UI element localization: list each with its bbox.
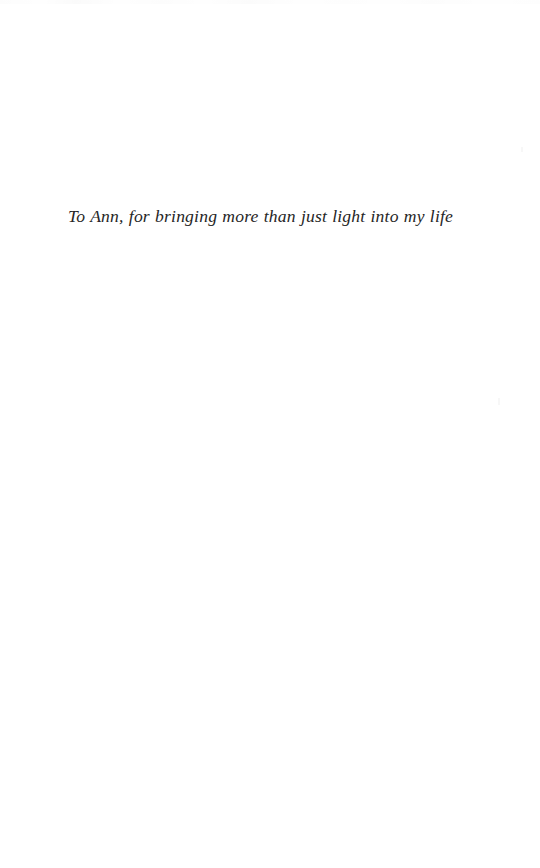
dedication-page: To Ann, for bringing more than just ligh… — [0, 0, 540, 868]
scan-speck-artifact — [521, 147, 523, 152]
scan-speck-artifact — [498, 398, 500, 405]
dedication-text: To Ann, for bringing more than just ligh… — [0, 203, 540, 229]
scan-edge-artifact — [0, 0, 540, 4]
dedication-block: To Ann, for bringing more than just ligh… — [0, 203, 540, 229]
